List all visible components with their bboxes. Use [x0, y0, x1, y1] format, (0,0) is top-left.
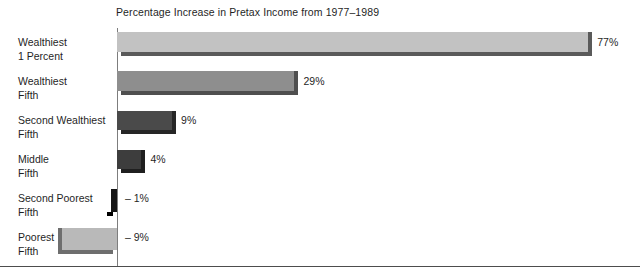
bar-side: [58, 228, 62, 250]
pretax-income-bar-chart: Percentage Increase in Pretax Income fro…: [0, 0, 640, 267]
plot-area: Wealthiest 1 Percent 77% Wealthiest Fift…: [0, 28, 640, 267]
bar-face: [62, 228, 117, 250]
bar[interactable]: [62, 228, 117, 250]
chart-title: Percentage Increase in Pretax Income fro…: [116, 6, 379, 19]
bar-shadow: [58, 250, 113, 254]
category-label-line1: Poorest: [18, 231, 54, 243]
bar-row: Poorest Fifth – 9%: [0, 28, 640, 267]
bar-value-label: – 9%: [125, 231, 149, 244]
